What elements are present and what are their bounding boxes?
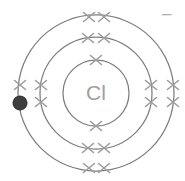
electron-x-mark [99,13,110,22]
bohr-diagram-svg: Cl – [0,0,185,181]
electron-x-mark [84,13,95,22]
ion-charge-sign: – [162,4,172,23]
element-symbol: Cl [86,81,106,104]
bohr-diagram: Cl – [0,0,185,181]
electron-x-mark [15,81,26,90]
gained-electron-dot [13,96,27,110]
